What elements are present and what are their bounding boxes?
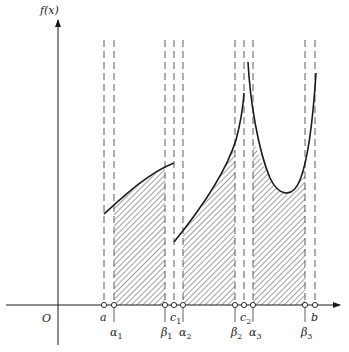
point-b: b xyxy=(311,302,318,324)
point-c1: c1 xyxy=(170,302,181,326)
origin-label: O xyxy=(42,312,51,325)
open-point-marker xyxy=(180,302,185,307)
region-2 xyxy=(183,143,235,305)
open-point-marker xyxy=(162,302,167,307)
point-alpha1: α1 xyxy=(110,302,123,341)
open-point-marker xyxy=(171,302,176,307)
point-label: β3 xyxy=(300,326,312,341)
point-label: α3 xyxy=(249,326,262,341)
open-point-marker xyxy=(250,302,255,307)
point-label: β2 xyxy=(230,326,242,341)
open-point-marker xyxy=(111,302,116,307)
point-label: a xyxy=(100,311,107,324)
point-c2: c2 xyxy=(240,302,251,326)
open-point-marker xyxy=(101,302,106,307)
open-point-marker xyxy=(312,302,317,307)
point-label: b xyxy=(311,311,318,324)
point-label: β1 xyxy=(160,326,172,341)
open-point-marker xyxy=(241,302,246,307)
point-label: α1 xyxy=(110,326,123,341)
point-label: α2 xyxy=(179,326,192,341)
point-a: a xyxy=(100,302,107,324)
region-1 xyxy=(114,168,165,305)
point-label: c1 xyxy=(170,311,181,326)
y-axis-label: f(x) xyxy=(39,4,59,17)
open-point-marker xyxy=(302,302,307,307)
axis-points: aα1β1c1α2β2c2α3β3b xyxy=(100,302,318,341)
point-label: c2 xyxy=(240,311,251,326)
open-point-marker xyxy=(232,302,237,307)
region-3 xyxy=(253,140,305,305)
shaded-regions xyxy=(114,140,305,305)
integration-diagram: aα1β1c1α2β2c2α3β3b f(x) O xyxy=(0,0,349,352)
